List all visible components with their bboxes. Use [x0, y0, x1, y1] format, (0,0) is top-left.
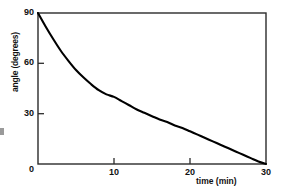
chart-figure: angle (degrees) time (min) 90 60 30 0 10… [0, 0, 283, 193]
page-edge-artifact [0, 128, 4, 135]
chart-canvas [0, 0, 283, 193]
y-tick-label-30: 30 [14, 108, 34, 118]
x-axis-title: time (min) [196, 176, 237, 186]
x-tick-label-20: 20 [180, 167, 200, 177]
y-tick-label-90: 90 [14, 7, 34, 17]
y-tick-label-60: 60 [14, 57, 34, 67]
x-tick-label-30: 30 [256, 167, 276, 177]
plot-frame [38, 13, 266, 164]
y-tick-label-0: 0 [14, 164, 34, 174]
x-tick-label-10: 10 [104, 167, 124, 177]
